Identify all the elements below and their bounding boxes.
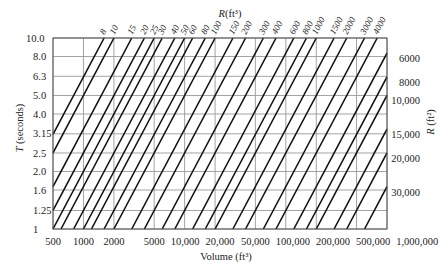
x-tick-label: 500: [45, 236, 61, 247]
r-line-label-right: 10,000: [391, 95, 420, 106]
right-axis-title: R (ft²): [425, 109, 437, 136]
y-tick-label: 2.0: [33, 166, 46, 177]
x-tick-label: 200,000: [316, 236, 350, 247]
y-tick-label: 8.0: [33, 51, 46, 62]
x-tick-label: 2000: [103, 236, 124, 247]
right-axis-unit: (ft²): [425, 109, 437, 129]
y-tick-label: 4.0: [33, 109, 46, 120]
y-tick-label: 1: [33, 224, 38, 235]
r-line-label-right: 30,000: [391, 187, 420, 198]
x-tick-label: 10,000: [171, 236, 200, 247]
y-tick-label: 10.0: [26, 33, 44, 44]
r-line-label-right: 6000: [399, 53, 420, 64]
left-axis-title: T (seconds): [14, 103, 26, 152]
chart-background: [0, 0, 445, 271]
x-tick-label: 20,000: [206, 236, 235, 247]
reverberation-nomogram: 50010002000500010,00020,00050,000100,000…: [0, 0, 445, 271]
r-line-label-right: 15,000: [391, 129, 420, 140]
y-tick-label: 3.15: [33, 128, 51, 139]
x-tick-label: 5000: [144, 236, 165, 247]
y-tick-label: 1.6: [33, 185, 46, 196]
x-tick-label: 500,000: [356, 236, 390, 247]
r-line-label-right: 8000: [399, 77, 420, 88]
x-tick-label: 1,000,000: [396, 236, 438, 247]
y-tick-label: 6.3: [33, 71, 46, 82]
y-tick-label: 5.0: [33, 90, 46, 101]
x-tick-label: 1000: [73, 236, 94, 247]
y-tick-label: 1.25: [33, 205, 51, 216]
top-axis-title: R(ft³): [218, 8, 242, 20]
top-axis-unit: (ft³): [225, 8, 242, 20]
x-tick-label: 50,000: [241, 236, 270, 247]
r-line-label-right: 20,000: [391, 153, 420, 164]
x-tick-labels: 50010002000500010,00020,00050,000100,000…: [45, 236, 438, 247]
bottom-axis-title: Volume (ft³): [200, 251, 252, 263]
left-axis-unit: (seconds): [14, 103, 26, 146]
y-tick-label: 2.5: [33, 148, 46, 159]
x-tick-label: 100,000: [276, 236, 310, 247]
